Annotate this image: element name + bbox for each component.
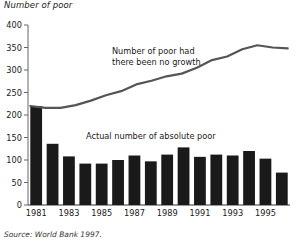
bar: [145, 161, 157, 205]
bar-annotation: Actual number of absolute poor: [86, 131, 216, 141]
bar: [178, 147, 190, 205]
x-tick-label: 1985: [91, 208, 112, 218]
bar: [227, 156, 239, 206]
bar: [30, 106, 42, 205]
x-tick-label: 1989: [157, 208, 178, 218]
bar: [210, 155, 222, 205]
bar: [96, 164, 108, 205]
chart-title: Number of poor: [4, 0, 72, 10]
y-tick-label: 200: [6, 110, 22, 120]
y-tick-label: 300: [6, 65, 22, 75]
figure-container: Number of poor 0 50 100 150 200 250 300: [0, 0, 297, 248]
chart-plot-area: 0 50 100 150 200 250 300 350 400 1981198…: [0, 12, 297, 228]
bar: [194, 157, 206, 205]
y-tick-label: 400: [6, 20, 22, 30]
y-tick-label: 50: [12, 178, 22, 188]
bar: [112, 160, 124, 205]
source-note: Source: World Bank 1997.: [4, 230, 102, 239]
y-tick-label: 150: [6, 133, 22, 143]
y-tick-label: 250: [6, 88, 22, 98]
bar-series: [30, 106, 287, 205]
x-tick-label: 1981: [26, 208, 47, 218]
bar: [47, 144, 59, 205]
x-tick-label: 1993: [222, 208, 243, 218]
y-axis-labels: 0 50 100 150 200 250 300 350 400: [6, 20, 22, 210]
bar: [276, 173, 288, 205]
y-axis-ticks: [24, 25, 28, 205]
bar: [63, 156, 75, 205]
line-annotation-row2: there been no growth: [112, 57, 201, 67]
x-axis-labels: 19811983198519871989199119931995: [26, 208, 276, 218]
y-tick-label: 0: [17, 200, 22, 210]
y-tick-label: 100: [6, 155, 22, 165]
bar: [260, 159, 272, 205]
line-annotation-row1: Number of poor had: [112, 46, 195, 56]
x-tick-label: 1991: [190, 208, 211, 218]
x-tick-label: 1987: [124, 208, 145, 218]
x-tick-label: 1995: [255, 208, 276, 218]
bar: [243, 151, 255, 205]
bar: [79, 164, 91, 205]
x-tick-label: 1983: [59, 208, 80, 218]
y-tick-label: 350: [6, 43, 22, 53]
bar: [161, 155, 173, 205]
bar: [129, 156, 141, 206]
